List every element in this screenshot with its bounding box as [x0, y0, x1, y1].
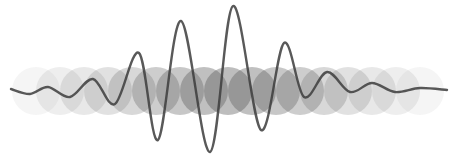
- wave-illustration: [0, 0, 455, 164]
- wave-graphic: [0, 0, 455, 164]
